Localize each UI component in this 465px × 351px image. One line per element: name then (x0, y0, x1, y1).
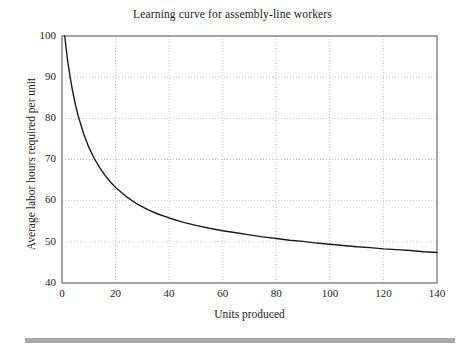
x-tick-120: 120 (366, 287, 400, 299)
gridlines (62, 36, 437, 283)
y-tick-60: 60 (30, 193, 56, 205)
y-tick-90: 90 (30, 70, 56, 82)
y-tick-70: 70 (30, 152, 56, 164)
x-tick-80: 80 (259, 287, 293, 299)
data-curve (65, 36, 437, 253)
y-tick-100: 100 (30, 29, 56, 41)
x-tick-0: 0 (45, 287, 79, 299)
x-tick-60: 60 (206, 287, 240, 299)
x-tick-100: 100 (313, 287, 347, 299)
y-tick-50: 50 (30, 235, 56, 247)
y-tick-80: 80 (30, 111, 56, 123)
footer-rule (25, 338, 455, 343)
x-tick-20: 20 (99, 287, 133, 299)
x-tick-40: 40 (152, 287, 186, 299)
figure-container: Learning curve for assembly-line workers… (0, 0, 465, 351)
x-axis-title: Units produced (62, 308, 437, 320)
x-tick-140: 140 (420, 287, 454, 299)
